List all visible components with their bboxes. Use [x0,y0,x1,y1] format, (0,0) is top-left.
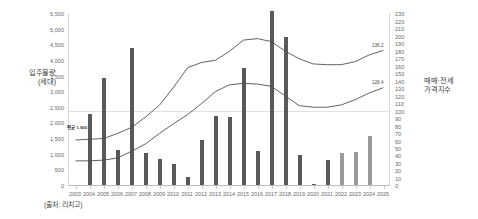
tickmark-2025 [384,186,385,189]
right-tick-label: 170 [395,56,417,62]
right-tick-label: 20 [395,168,417,174]
left-tick-label: 3,500 [34,74,64,80]
tickmark-2018 [286,186,287,189]
left-tick-label: 2,000 [34,120,64,126]
tickmark-2003 [76,186,77,189]
right-tick-label: 80 [395,124,417,130]
left-tick-label: 3,000 [34,89,64,95]
tickmark-2023 [356,186,357,189]
right-tick-label: 100 [395,109,417,115]
tickmark-2004 [90,186,91,189]
line-jeonse-index [76,83,383,161]
tickmark-2011 [188,186,189,189]
right-tick-label: 200 [395,34,417,40]
right-tick-label: 90 [395,116,417,122]
right-tick-label: 150 [395,71,417,77]
source-caption: (출처: 리치고) [44,199,83,209]
tickmark-2024 [370,186,371,189]
right-tick-label: 160 [395,64,417,70]
line-sale-index [76,39,383,140]
right-tick-label: 50 [395,146,417,152]
tickmark-2015 [244,186,245,189]
left-tick-label: 5,500 [34,11,64,17]
average-marker-label: 평균 1,900 [67,124,87,130]
right-tick-label: 0 [395,183,417,189]
right-tick-label: 60 [395,139,417,145]
plot-area: 136.2128.4평균 1,900 [68,14,390,186]
jeonse-index-end-label: 128.4 [372,80,384,85]
tickmark-2013 [216,186,217,189]
tickmark-2007 [132,186,133,189]
right-tick-label: 70 [395,131,417,137]
right-tick-label: 10 [395,176,417,182]
tickmark-2020 [314,186,315,189]
left-tick-label: 4,000 [34,58,64,64]
right-tick-label: 210 [395,26,417,32]
left-tick-label: 5,000 [34,27,64,33]
tickmark-2019 [300,186,301,189]
left-tick-label: 1,000 [34,152,64,158]
line-series [69,14,390,185]
tickmark-2016 [258,186,259,189]
tickmark-2005 [104,186,105,189]
right-tick-label: 230 [395,11,417,17]
right-tick-label: 30 [395,161,417,167]
tickmark-2022 [342,186,343,189]
right-tick-label: 40 [395,153,417,159]
right-tick-label: 220 [395,19,417,25]
tickmark-2014 [230,186,231,189]
left-tick-label: 1,500 [34,136,64,142]
left-tick-label: 4,500 [34,42,64,48]
tickmark-2010 [174,186,175,189]
left-tick-label: 0 [34,183,64,189]
left-tick-label: 2,500 [34,105,64,111]
right-axis-title: 매매·전세 가격지수 [424,76,476,94]
sale-index-end-label: 136.2 [372,43,384,48]
x-tick-label: 2025 [374,191,392,197]
tickmark-2009 [160,186,161,189]
chart-container: 입주물량 (세대) 매매·전세 가격지수 5,5005,0004,5004,00… [0,0,478,219]
left-tick-label: 500 [34,167,64,173]
right-tick-label: 180 [395,49,417,55]
tickmark-2021 [328,186,329,189]
right-tick-label: 130 [395,86,417,92]
tickmark-2017 [272,186,273,189]
right-tick-label: 120 [395,94,417,100]
right-tick-label: 110 [395,101,417,107]
right-tick-label: 140 [395,79,417,85]
tickmark-2008 [146,186,147,189]
tickmark-2006 [118,186,119,189]
tickmark-2012 [202,186,203,189]
right-tick-label: 190 [395,41,417,47]
